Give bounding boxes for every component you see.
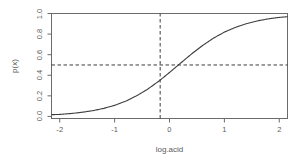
data-series-line — [52, 17, 288, 115]
x-tick-label: -1 — [111, 125, 118, 134]
x-axis-ticks — [60, 119, 280, 123]
y-tick-label: 0.2 — [34, 90, 43, 101]
y-axis-ticks — [48, 14, 52, 117]
y-tick-label: 0.0 — [34, 111, 43, 122]
x-axis-title: log.acid — [156, 145, 184, 154]
y-tick-label: 0.8 — [34, 29, 43, 40]
chart-canvas — [0, 0, 301, 163]
x-tick-label: 1 — [222, 125, 226, 134]
logistic-curve-chart: -2-1012 0.00.20.40.60.81.0 log.acid p(x) — [0, 0, 301, 163]
reference-lines-group — [52, 14, 288, 119]
x-tick-label: 0 — [167, 125, 171, 134]
x-tick-label: -2 — [56, 125, 63, 134]
y-tick-label: 1.0 — [34, 8, 43, 19]
y-tick-label: 0.4 — [34, 70, 43, 81]
y-tick-label: 0.6 — [34, 49, 43, 60]
x-tick-label: 2 — [277, 125, 281, 134]
plot-frame-box — [52, 14, 288, 119]
y-axis-title: p(x) — [10, 59, 19, 73]
data-series-group — [52, 17, 288, 115]
